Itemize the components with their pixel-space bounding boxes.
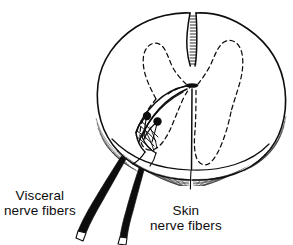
neuron-cell-body-2 [153, 117, 161, 125]
visceral-nerve-fiber-root [76, 156, 126, 241]
neuron-cell-body-1 [143, 112, 151, 120]
label-visceral-nerve-fibers: Visceral nerve fibers [4, 188, 76, 218]
label-skin-nerve-fibers: Skin nerve fibers [150, 203, 222, 233]
spinal-cord-figure: Visceral nerve fibers Skin nerve fibers [0, 0, 293, 245]
label-visceral-line-2: nerve fibers [4, 203, 76, 218]
label-visceral-line-1: Visceral [4, 188, 76, 203]
label-skin-line-2: nerve fibers [150, 218, 222, 233]
posterior-median-sulcus [187, 13, 198, 66]
ascending-fiber-tracts [133, 86, 187, 166]
skin-nerve-fiber-root [118, 168, 144, 245]
label-skin-line-1: Skin [150, 203, 222, 218]
anterior-median-fissure [190, 89, 192, 189]
central-canal [186, 83, 198, 88]
